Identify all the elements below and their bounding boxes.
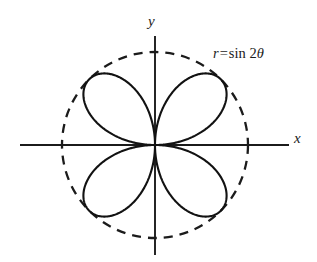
rose-petal-lower-right xyxy=(83,73,155,145)
equation-function: sin xyxy=(229,45,246,61)
polar-plot-figure: y x r=sin 2θ xyxy=(0,0,317,262)
equation-coefficient: 2 xyxy=(249,45,256,61)
y-axis-label: y xyxy=(148,14,155,29)
equation-lhs: r xyxy=(213,45,219,61)
equation-variable: θ xyxy=(257,45,264,61)
equation-label: r=sin 2θ xyxy=(213,46,264,61)
polar-rose-chart xyxy=(0,0,317,262)
x-axis-label: x xyxy=(294,131,301,146)
rose-petal-upper-right xyxy=(155,73,227,145)
equation-operator: = xyxy=(219,45,229,61)
rose-petal-upper-left xyxy=(155,145,227,217)
rose-petal-lower-left xyxy=(83,145,155,217)
